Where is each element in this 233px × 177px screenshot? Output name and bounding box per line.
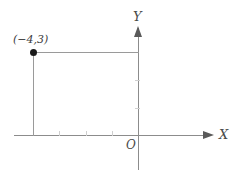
vertical-guide-line [33,52,34,136]
x-axis-line [14,135,206,136]
x-axis-tick [86,131,87,136]
origin-label: O [126,139,136,151]
coordinate-plane-figure: Y X O (−4,3) [0,0,233,177]
y-axis-tick [135,108,140,109]
x-axis-label: X [219,128,228,141]
y-axis-tick [135,80,140,81]
y-axis-label: Y [133,10,142,23]
x-axis-tick [59,131,60,136]
x-axis-tick [112,131,113,136]
horizontal-guide-line [33,52,139,53]
y-axis-line [138,28,139,170]
x-axis-arrow-icon [203,131,214,139]
point-coordinate-label: (−4,3) [13,34,48,45]
plotted-point-marker [30,49,37,56]
y-axis-arrow-icon [134,26,142,37]
